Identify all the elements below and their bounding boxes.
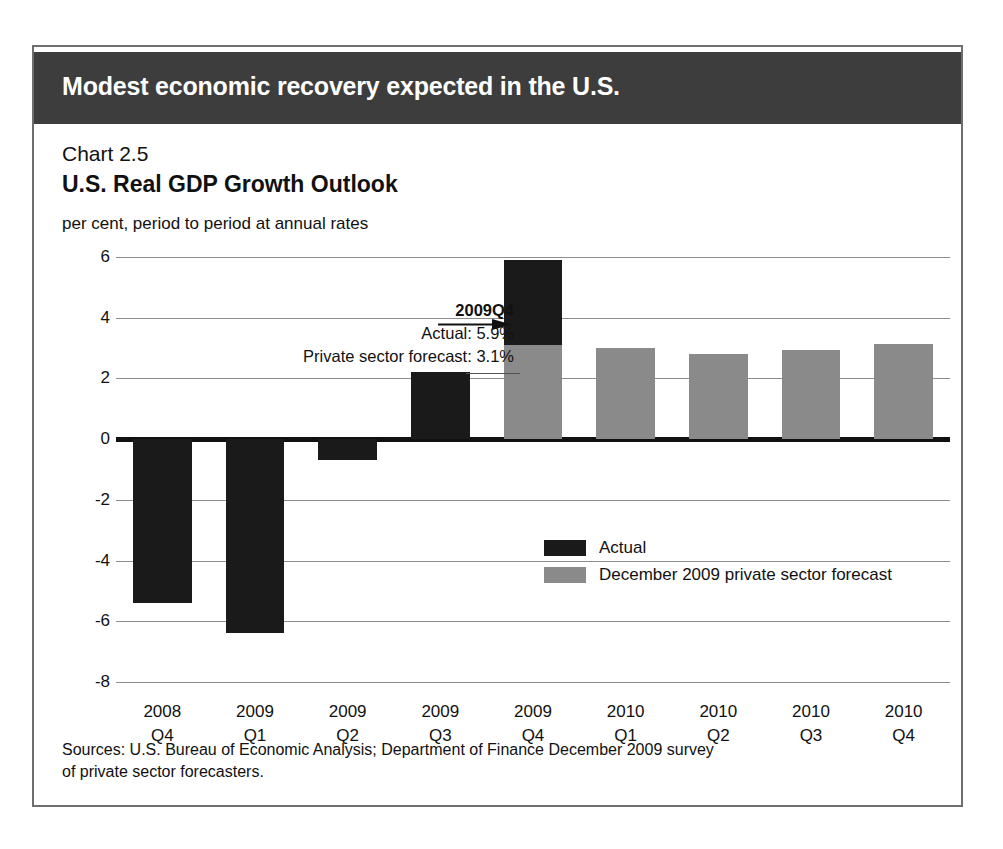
gridline [116, 682, 950, 683]
banner-title: Modest economic recovery expected in the… [62, 72, 620, 101]
x-axis-year: 2008 [116, 700, 209, 724]
y-axis-tick-label: -8 [56, 672, 110, 692]
x-axis-quarter: Q3 [765, 724, 858, 748]
y-axis-tick-label: -4 [56, 551, 110, 571]
bar-forecast [874, 344, 932, 440]
x-axis-tick-label: 2010Q3 [765, 700, 858, 748]
legend-item-forecast: December 2009 private sector forecast [544, 561, 892, 588]
bar-actual [226, 439, 284, 633]
x-axis-quarter: Q4 [487, 724, 580, 748]
x-axis-year: 2009 [209, 700, 302, 724]
x-axis-quarter: Q1 [209, 724, 302, 748]
annotation-leader-line [466, 373, 520, 374]
legend-label-forecast: December 2009 private sector forecast [599, 565, 892, 585]
chart-number: Chart 2.5 [62, 142, 148, 166]
annotation-forecast: Private sector forecast: 3.1% [264, 345, 514, 368]
x-axis-year: 2010 [672, 700, 765, 724]
x-axis-year: 2009 [394, 700, 487, 724]
annotation-arrow-icon [438, 319, 512, 330]
bar-forecast [782, 350, 840, 440]
chart-card: Modest economic recovery expected in the… [32, 45, 963, 807]
y-axis-tick-label: 4 [56, 308, 110, 328]
x-axis-quarter: Q4 [116, 724, 209, 748]
x-axis-tick-label: 2009Q1 [209, 700, 302, 748]
bar-actual [318, 439, 376, 460]
chart-banner: Modest economic recovery expected in the… [34, 52, 961, 124]
x-axis-year: 2010 [857, 700, 950, 724]
bar-actual [133, 439, 191, 603]
bar-actual [411, 372, 469, 439]
x-axis-quarter: Q3 [394, 724, 487, 748]
x-axis-quarter: Q2 [672, 724, 765, 748]
chart-annotation: 2009Q4 Actual: 5.9% Private sector forec… [264, 299, 514, 368]
plot-area: 6420-2-4-6-8 [90, 257, 950, 682]
x-axis-tick-label: 2009Q3 [394, 700, 487, 748]
gridline [116, 257, 950, 258]
bar-forecast [596, 348, 654, 439]
x-axis-quarter: Q2 [301, 724, 394, 748]
legend-item-actual: Actual [544, 534, 892, 561]
x-axis-tick-label: 2008Q4 [116, 700, 209, 748]
y-axis-tick-label: -2 [56, 490, 110, 510]
chart-title: U.S. Real GDP Growth Outlook [62, 171, 398, 198]
chart-legend: Actual December 2009 private sector fore… [544, 534, 892, 588]
y-axis-tick-label: 0 [56, 429, 110, 449]
x-axis-tick-label: 2009Q4 [487, 700, 580, 748]
x-axis-quarter: Q4 [857, 724, 950, 748]
source-note-line-2: of private sector forecasters. [62, 761, 912, 783]
legend-label-actual: Actual [599, 538, 646, 558]
x-axis-year: 2009 [487, 700, 580, 724]
axis-units-label: per cent, period to period at annual rat… [62, 214, 368, 234]
legend-swatch-actual [544, 540, 586, 556]
y-axis-tick-label: 6 [56, 247, 110, 267]
x-axis-tick-label: 2010Q4 [857, 700, 950, 748]
y-axis-tick-label: 2 [56, 368, 110, 388]
x-axis-year: 2009 [301, 700, 394, 724]
x-axis-year: 2010 [765, 700, 858, 724]
x-axis-tick-label: 2010Q1 [579, 700, 672, 748]
x-axis-tick-label: 2009Q2 [301, 700, 394, 748]
y-axis-tick-label: -6 [56, 611, 110, 631]
x-axis-quarter: Q1 [579, 724, 672, 748]
x-axis-year: 2010 [579, 700, 672, 724]
legend-swatch-forecast [544, 567, 586, 583]
x-axis-tick-label: 2010Q2 [672, 700, 765, 748]
bar-forecast [689, 354, 747, 439]
